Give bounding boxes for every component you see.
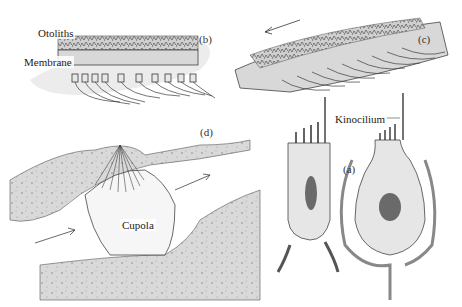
flow-arrow-icon	[35, 230, 75, 243]
otoliths-layer	[58, 36, 198, 50]
label-otoliths: Otoliths	[36, 27, 75, 39]
nucleus	[305, 176, 317, 210]
label-membrane: Membrane	[22, 56, 74, 68]
panel-b-otolith-organ	[30, 36, 215, 104]
panel-label-d: (d)	[200, 126, 213, 138]
panel-label-c: (c)	[418, 33, 430, 45]
panel-label-a: (a)	[343, 163, 355, 175]
nucleus	[379, 193, 401, 221]
flow-arrow-icon	[175, 175, 210, 190]
label-cupola: Cupola	[120, 219, 156, 231]
membrane-layer	[58, 50, 198, 65]
panel-label-b: (b)	[199, 33, 212, 45]
label-kinocilium: Kinocilium	[333, 113, 387, 125]
arrow-left-icon	[265, 20, 300, 32]
panel-c-tilted-otolith-organ	[235, 18, 448, 92]
illustration-canvas	[0, 0, 462, 307]
